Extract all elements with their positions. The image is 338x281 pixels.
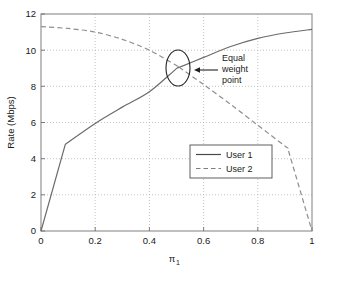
series-line-user-1 [41, 29, 312, 231]
y-tick-label: 0 [31, 225, 36, 236]
annotation-line: Equal [222, 53, 245, 63]
x-tick-label: 1 [309, 235, 314, 246]
y-axis-title: Rate (Mbps) [5, 96, 16, 148]
annotation-line: weight [221, 64, 249, 74]
x-tick-label: 0.2 [89, 235, 102, 246]
legend-label: User 2 [226, 164, 253, 174]
y-tick-label: 2 [31, 189, 36, 200]
x-tick-label: 0.8 [251, 235, 264, 246]
x-tickmarks [41, 227, 312, 231]
x-axis-title-subscript: 1 [176, 259, 180, 266]
y-tick-labels: 0 2 4 6 8 10 12 [25, 8, 36, 236]
legend: User 1 User 2 [190, 145, 272, 178]
y-tick-label: 8 [31, 81, 36, 92]
equal-weight-point-label: Equal weight point [221, 53, 249, 85]
x-axis-title-base: π [169, 253, 176, 264]
x-axis-title: π 1 [169, 253, 180, 266]
y-tick-label: 10 [25, 45, 36, 56]
equal-weight-point-arrow-icon [194, 67, 218, 73]
x-tick-label: 0 [38, 235, 43, 246]
x-tick-label: 0.6 [197, 235, 210, 246]
y-tick-label: 6 [31, 117, 36, 128]
gridlines [41, 14, 312, 231]
y-tick-label: 4 [31, 153, 36, 164]
y-tickmarks [41, 14, 45, 231]
chart-figure: 0 2 4 6 8 10 12 0 0.2 0.4 0.6 0.8 1 Rate… [0, 0, 338, 281]
x-tick-labels: 0 0.2 0.4 0.6 0.8 1 [38, 235, 314, 246]
annotation-line: point [222, 75, 242, 85]
series-line-user-2 [41, 27, 312, 231]
x-tick-label: 0.4 [143, 235, 156, 246]
legend-label: User 1 [226, 150, 253, 160]
y-tick-label: 12 [25, 8, 36, 19]
